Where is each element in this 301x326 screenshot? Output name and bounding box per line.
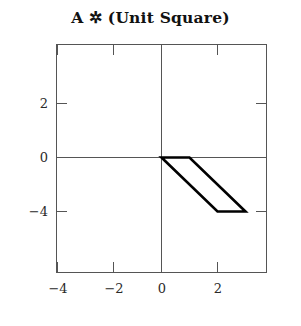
x-axis-ticks-bottom (58, 262, 218, 273)
y-tick-label--4: −4 (14, 204, 48, 219)
x-tick-label-0: 0 (142, 281, 182, 296)
x-axis-ticks-top (58, 45, 218, 56)
y-tick-label-2: 2 (14, 96, 48, 111)
y-axis-ticks-right (256, 104, 267, 212)
x-tick-label--2: −2 (94, 281, 134, 296)
x-tick-label--4: −4 (38, 281, 78, 296)
y-axis-ticks-left (57, 104, 68, 212)
y-tick-label-0: 0 (14, 150, 48, 165)
transformed-unit-square (162, 158, 246, 212)
chart-figure: A ✲ (Unit Square) (0, 0, 301, 326)
x-tick-label-2: 2 (198, 281, 238, 296)
